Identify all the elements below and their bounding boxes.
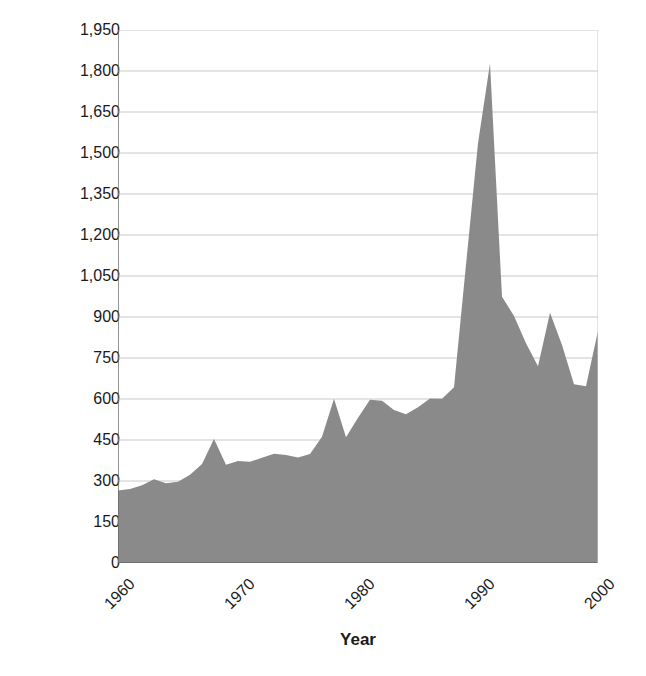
x-axis-title: Year (118, 630, 598, 650)
immigration-area-chart: Number of immigrants, in thousands 01503… (0, 0, 646, 676)
x-axis-tick-labels: 19601970198019902000 (0, 0, 646, 676)
